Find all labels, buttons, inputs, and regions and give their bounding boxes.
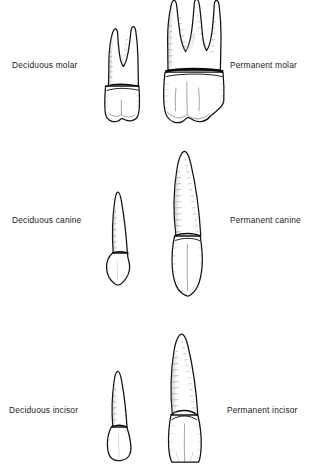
- permanent-canine-illustration: [172, 151, 202, 296]
- label-permanent-canine: Permanent canine: [230, 216, 301, 224]
- label-deciduous-canine: Deciduous canine: [12, 216, 81, 224]
- label-permanent-molar: Permanent molar: [230, 61, 297, 69]
- deciduous-canine-illustration: [107, 192, 130, 285]
- label-permanent-incisor: Permanent incisor: [227, 406, 298, 414]
- label-deciduous-molar: Deciduous molar: [12, 61, 78, 69]
- deciduous-molar-illustration: [105, 27, 140, 122]
- deciduous-incisor-illustration: [107, 371, 131, 460]
- tooth-comparison-figure: Deciduous molar Permanent molar Deciduou…: [0, 0, 320, 464]
- permanent-molar-illustration: [164, 0, 224, 123]
- permanent-incisor-illustration: [169, 334, 202, 462]
- label-deciduous-incisor: Deciduous incisor: [9, 406, 78, 414]
